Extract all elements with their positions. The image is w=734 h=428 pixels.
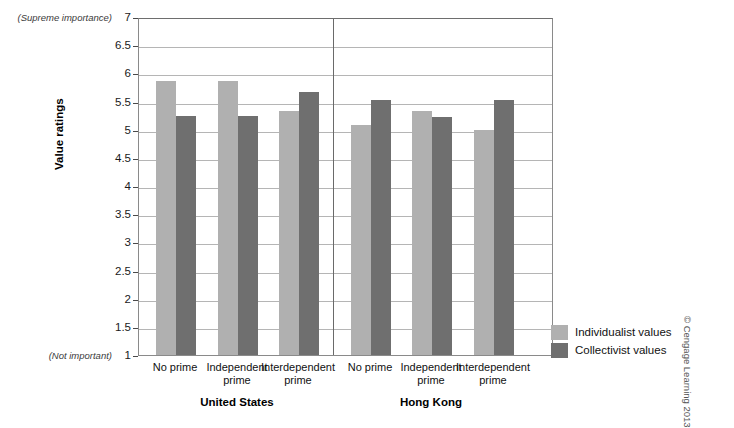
- y-axis-tick-label: 7: [125, 12, 131, 24]
- y-axis-tick-label: 4.5: [115, 153, 131, 165]
- y-axis-tick-label: 2: [125, 294, 131, 306]
- y-axis-high-note: (Supreme importance): [0, 12, 112, 23]
- chart-legend: Individualist valuesCollectivist values: [551, 324, 672, 360]
- legend-item: Individualist values: [551, 324, 672, 340]
- legend-swatch-icon: [551, 343, 568, 358]
- legend-label: Collectivist values: [575, 344, 666, 356]
- y-axis-tick-mark: [133, 243, 138, 244]
- y-axis-tick-mark: [133, 103, 138, 104]
- gridline: [139, 104, 552, 105]
- y-axis-tick-label: 5.5: [115, 97, 131, 109]
- bar-individualist: [474, 130, 494, 355]
- gridline: [139, 47, 552, 48]
- bar-collectivist: [299, 92, 319, 355]
- y-axis-tick-mark: [133, 356, 138, 357]
- bar-collectivist: [238, 116, 258, 355]
- y-axis-title: Value ratings: [53, 156, 65, 170]
- copyright-credit: © Cengage Learning 2013: [682, 316, 693, 428]
- y-axis-tick-mark: [133, 272, 138, 273]
- y-axis-tick-mark: [133, 187, 138, 188]
- bar-individualist: [218, 81, 238, 355]
- y-axis-tick-label: 4: [125, 181, 131, 193]
- gridline: [139, 75, 552, 76]
- y-axis-low-note: (Not important): [0, 350, 112, 361]
- y-axis-tick-label: 5: [125, 125, 131, 137]
- y-axis-tick-mark: [133, 131, 138, 132]
- bar-individualist: [279, 111, 299, 355]
- panel-divider: [333, 19, 334, 355]
- group-label-hong-kong: Hong Kong: [351, 396, 511, 408]
- y-axis-tick-label: 1: [125, 350, 131, 362]
- bar-individualist: [412, 111, 432, 355]
- legend-swatch-icon: [551, 325, 568, 340]
- bar-collectivist: [176, 116, 196, 355]
- y-axis-tick-label: 3.5: [115, 209, 131, 221]
- y-axis-tick-mark: [133, 18, 138, 19]
- legend-label: Individualist values: [575, 326, 672, 338]
- y-axis-tick-label: 6: [125, 68, 131, 80]
- y-axis-tick-label: 1.5: [115, 322, 131, 334]
- y-axis-tick-mark: [133, 46, 138, 47]
- y-axis-tick-mark: [133, 300, 138, 301]
- y-axis-tick-mark: [133, 328, 138, 329]
- y-axis-tick-label: 3: [125, 237, 131, 249]
- bar-collectivist: [432, 117, 452, 355]
- y-axis-tick-label: 6.5: [115, 40, 131, 52]
- x-axis-tick-label: Interdependent prime: [441, 361, 545, 386]
- bar-individualist: [156, 81, 176, 355]
- bar-individualist: [351, 125, 371, 355]
- y-axis-tick-mark: [133, 215, 138, 216]
- y-axis-tick-label: 2.5: [115, 266, 131, 278]
- y-axis-tick-mark: [133, 74, 138, 75]
- legend-item: Collectivist values: [551, 342, 672, 358]
- bar-collectivist: [494, 100, 514, 355]
- bar-collectivist: [371, 100, 391, 355]
- y-axis-tick-mark: [133, 159, 138, 160]
- chart-plot-area: [138, 18, 553, 356]
- group-label-united-states: United States: [157, 396, 317, 408]
